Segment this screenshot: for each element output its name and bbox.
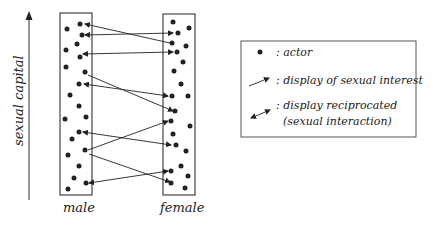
male-label: male <box>63 200 95 215</box>
legend-reciprocated-2: (sexual interaction) <box>283 115 392 128</box>
actor-dot-icon <box>258 50 263 55</box>
legend-reciprocated-1: : display reciprocated <box>276 99 397 112</box>
male-box <box>60 13 92 195</box>
diagram: sexual capital male female <box>0 0 433 225</box>
legend-actor: : actor <box>276 46 313 59</box>
female-label: female <box>159 200 205 215</box>
legend-interest: : display of sexual interest <box>276 74 423 87</box>
legend: : actor : display of sexual interest : d… <box>241 41 423 137</box>
female-box <box>163 14 195 195</box>
axis-label: sexual capital <box>11 55 26 146</box>
female-actors <box>169 20 193 191</box>
sexual-capital-axis: sexual capital <box>11 11 33 200</box>
interaction-arrows <box>83 24 173 183</box>
male-actors <box>63 22 89 192</box>
